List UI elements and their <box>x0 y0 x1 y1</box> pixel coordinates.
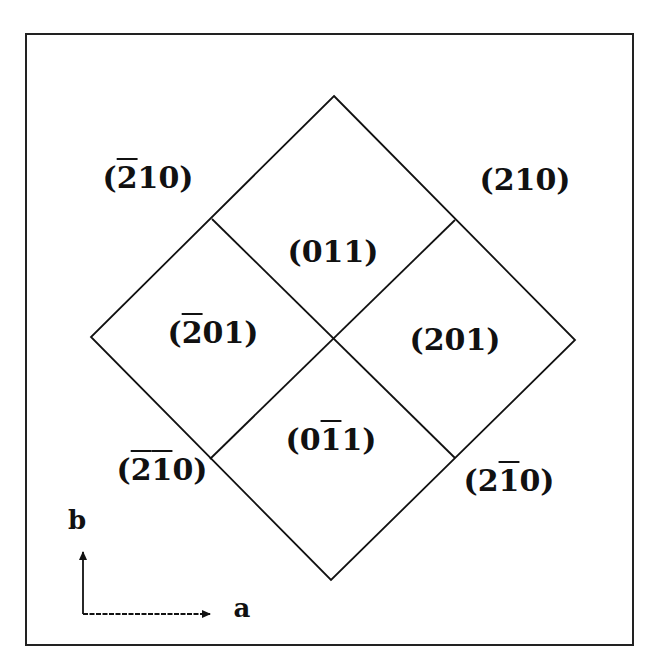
miller-index-label: (011) <box>285 425 376 455</box>
miller-index-label: (011) <box>287 237 378 267</box>
b-axis-label: b <box>68 507 86 533</box>
a-axis-label: a <box>234 595 251 621</box>
figure-frame <box>26 34 633 645</box>
miller-index-label: (210) <box>463 466 554 496</box>
miller-index-label: (210) <box>102 163 193 193</box>
miller-index-label: (210) <box>479 165 570 195</box>
diagram-canvas <box>0 0 662 662</box>
crystal-face-diagram: (011)(201)(201)(011)(210)(210)(210)(210)… <box>0 0 662 662</box>
miller-index-label: (210) <box>116 455 207 485</box>
miller-index-label: (201) <box>167 318 258 348</box>
miller-index-label: (201) <box>409 325 500 355</box>
